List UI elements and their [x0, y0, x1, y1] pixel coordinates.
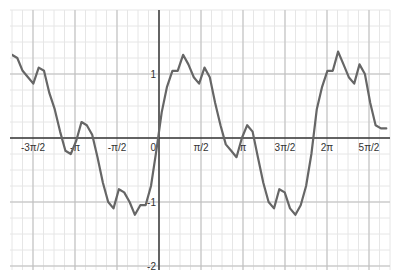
x-tick-label: 2π: [321, 142, 334, 153]
y-tick-label: -2: [147, 261, 156, 272]
function-curve: [12, 52, 386, 215]
minor-gridlines: [10, 10, 390, 270]
x-tick-label: -π/2: [108, 142, 127, 153]
y-tick-label: 1: [150, 69, 156, 80]
function-graph: -3π/2-π-π/20π/2π3π/22π5π/2 1-1-2: [0, 0, 401, 278]
x-tick-label: -3π/2: [21, 142, 46, 153]
x-tick-label: π/2: [193, 142, 209, 153]
x-tick-label: 5π/2: [359, 142, 380, 153]
major-gridlines: [10, 10, 390, 270]
x-tick-label: 3π/2: [275, 142, 296, 153]
